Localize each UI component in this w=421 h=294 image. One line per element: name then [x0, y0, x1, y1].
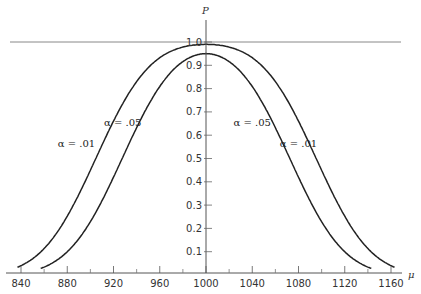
x-axis: 84088092096010001040108011201160 — [6, 266, 404, 289]
y-tick-label: 0.8 — [186, 83, 202, 94]
x-tick-label: 1000 — [193, 278, 218, 289]
y-tick-label: 0.6 — [186, 130, 202, 141]
x-tick-label: 1120 — [332, 278, 357, 289]
x-tick-label: 1080 — [286, 278, 311, 289]
y-tick-label: 0.5 — [186, 153, 202, 164]
x-tick-label: 960 — [150, 278, 169, 289]
y-tick-label: 0.2 — [186, 223, 202, 234]
x-tick-label: 880 — [58, 278, 77, 289]
y-tick-label: 0.7 — [186, 106, 202, 117]
y-tick-label: 1.0 — [186, 37, 202, 48]
y-tick-label: 0.3 — [186, 200, 202, 211]
y-tick-label: 0.9 — [186, 60, 202, 71]
x-tick-label: 840 — [11, 278, 30, 289]
x-tick-label: 920 — [104, 278, 123, 289]
x-tick-label: 1040 — [240, 278, 265, 289]
y-tick-label: 0.4 — [186, 176, 202, 187]
curve-label: α = .05 — [104, 117, 141, 128]
x-tick-label: 1160 — [378, 278, 403, 289]
y-tick-label: 0.1 — [186, 246, 202, 257]
curve-label: α = .01 — [280, 138, 317, 149]
y-axis-title: P — [201, 5, 209, 16]
curve-label: α = .01 — [58, 138, 95, 149]
oc-curve-chart: 84088092096010001040108011201160 0.10.20… — [0, 0, 421, 294]
x-axis-title: μ — [408, 269, 415, 280]
curve-label: α = .05 — [234, 117, 271, 128]
